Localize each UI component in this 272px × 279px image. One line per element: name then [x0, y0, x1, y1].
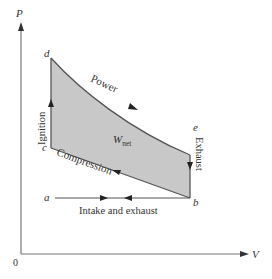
x-axis-arrow-icon	[240, 251, 249, 257]
exhaust-label: Exhaust	[194, 137, 205, 171]
intake-exhaust-label: Intake and exhaust	[79, 205, 158, 216]
point-b-label: b	[193, 196, 199, 208]
net-work-subscript: net	[122, 139, 132, 148]
point-d-label: d	[44, 47, 50, 59]
ignition-label: Ignition	[36, 111, 47, 145]
compression-arrow-icon	[112, 170, 121, 175]
pv-diagram: P V 0 d c e b a Power Compression Igniti…	[0, 0, 272, 279]
point-a-label: a	[44, 191, 50, 203]
origin-label: 0	[13, 257, 18, 268]
power-label: Power	[89, 72, 120, 95]
power-arrow-icon	[128, 103, 138, 110]
y-axis-label: P	[15, 7, 23, 19]
y-axis-arrow-icon	[18, 22, 24, 31]
point-e-label: e	[193, 121, 198, 133]
exhaust-return-arrow-icon	[124, 195, 132, 201]
x-axis-label: V	[252, 248, 260, 260]
intake-arrow-icon	[100, 195, 108, 201]
